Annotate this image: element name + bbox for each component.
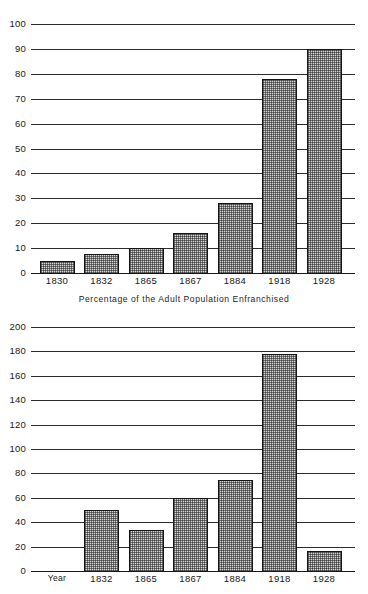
y-axis-tick-label: 180 xyxy=(0,346,26,356)
gridline-bottom-180 xyxy=(31,351,355,352)
y-axis-tick-label: 100 xyxy=(0,444,26,454)
bar-bottom-1867 xyxy=(173,498,208,572)
bar-top-1928 xyxy=(307,49,342,274)
gridline-bottom-200 xyxy=(31,327,355,328)
chart-percentage-enfranchised-bottom: 020406080100120140160180200Year183218651… xyxy=(0,316,368,594)
chart-percentage-enfranchised-top: 0102030405060708090100183018321865186718… xyxy=(0,0,368,292)
y-axis-tick-label: 160 xyxy=(0,371,26,381)
y-axis-tick-label: 60 xyxy=(0,493,26,503)
bar-bottom-1884 xyxy=(218,480,253,573)
bar-bottom-1918 xyxy=(262,354,297,572)
y-axis-tick-label: 20 xyxy=(0,218,26,228)
y-axis-tick-label: 0 xyxy=(0,566,26,576)
y-axis-tick-label: 90 xyxy=(0,44,26,54)
y-axis-tick-label: 10 xyxy=(0,243,26,253)
y-axis-tick-label: 70 xyxy=(0,94,26,104)
gridline-top-100 xyxy=(31,24,355,25)
gridline-bottom-120 xyxy=(31,425,355,426)
y-axis-tick-label: 40 xyxy=(0,168,26,178)
y-axis-tick-label: 200 xyxy=(0,322,26,332)
bar-top-1832 xyxy=(84,254,119,274)
bar-bottom-1865 xyxy=(129,530,164,572)
plot-area-bottom: 020406080100120140160180200Year183218651… xyxy=(0,316,368,594)
y-axis-tick-label: 80 xyxy=(0,468,26,478)
bar-bottom-1832 xyxy=(84,510,119,572)
bar-top-1884 xyxy=(218,203,253,274)
gridline-bottom-80 xyxy=(31,473,355,474)
gridline-bottom-100 xyxy=(31,449,355,450)
bar-top-1830 xyxy=(40,261,75,274)
figure-caption: Percentage of the Adult Population Enfra… xyxy=(0,292,368,306)
bar-bottom-1928 xyxy=(307,551,342,572)
y-axis-tick-label: 100 xyxy=(0,19,26,29)
gridline-bottom-160 xyxy=(31,376,355,377)
y-axis-tick-label: 20 xyxy=(0,542,26,552)
bar-top-1865 xyxy=(129,248,164,274)
y-axis-tick-label: 80 xyxy=(0,69,26,79)
bar-top-1918 xyxy=(262,79,297,274)
y-axis-tick-label: 120 xyxy=(0,420,26,430)
y-axis-tick-label: 30 xyxy=(0,193,26,203)
figure-two-bar-charts: 0102030405060708090100183018321865186718… xyxy=(0,0,368,594)
bar-top-1867 xyxy=(173,233,208,274)
y-axis-tick-label: 0 xyxy=(0,268,26,278)
y-axis-tick-label: 140 xyxy=(0,395,26,405)
y-axis-tick-label: 60 xyxy=(0,119,26,129)
y-axis-tick-label: 40 xyxy=(0,517,26,527)
gridline-bottom-140 xyxy=(31,400,355,401)
x-axis-tick-label: 1928 xyxy=(296,275,352,286)
plot-area-top: 0102030405060708090100183018321865186718… xyxy=(0,0,368,292)
x-axis-tick-label: 1928 xyxy=(296,573,352,584)
y-axis-tick-label: 50 xyxy=(0,144,26,154)
